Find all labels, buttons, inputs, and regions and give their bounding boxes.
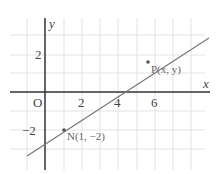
- y-axis-label: y: [49, 17, 55, 30]
- tick-x-4: 4: [114, 96, 121, 109]
- grid: [10, 18, 205, 170]
- tick-x-6: 6: [151, 96, 158, 109]
- point-n: [62, 128, 66, 132]
- point-p: [146, 60, 150, 64]
- tick-y-2: 2: [35, 48, 42, 61]
- origin-label: O: [33, 96, 42, 109]
- x-axis-label: x: [203, 77, 209, 90]
- point-p-label: P(x, y): [151, 64, 181, 75]
- tick-x-2: 2: [78, 96, 85, 109]
- tick-y-neg2: −2: [22, 124, 36, 137]
- coordinate-plane: [0, 0, 218, 174]
- point-n-label: N(1, −2): [67, 131, 105, 142]
